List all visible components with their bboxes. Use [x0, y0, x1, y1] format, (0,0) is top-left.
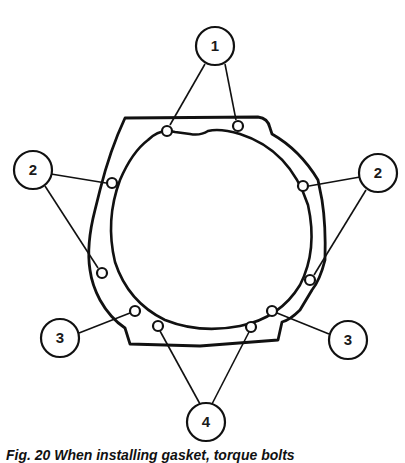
svg-text:2: 2: [29, 161, 37, 178]
svg-text:3: 3: [56, 329, 64, 346]
figure-caption: Fig. 20 When installing gasket, torque b…: [6, 447, 295, 463]
callout-3-right: 3: [329, 321, 367, 359]
svg-text:3: 3: [344, 331, 352, 348]
callout-2-left: 2: [14, 151, 52, 189]
callout-1: 1: [196, 27, 234, 65]
svg-text:4: 4: [202, 413, 211, 430]
callout-2-right: 2: [359, 154, 397, 192]
callout-3-left: 3: [41, 319, 79, 357]
gasket-outer-outline: [89, 117, 325, 346]
bolt-holes: [97, 121, 315, 332]
svg-text:1: 1: [211, 37, 219, 54]
gasket-inner-bore: [111, 130, 312, 329]
svg-text:2: 2: [374, 164, 382, 181]
callout-4: 4: [187, 403, 225, 441]
leader-lines: [45, 64, 366, 404]
